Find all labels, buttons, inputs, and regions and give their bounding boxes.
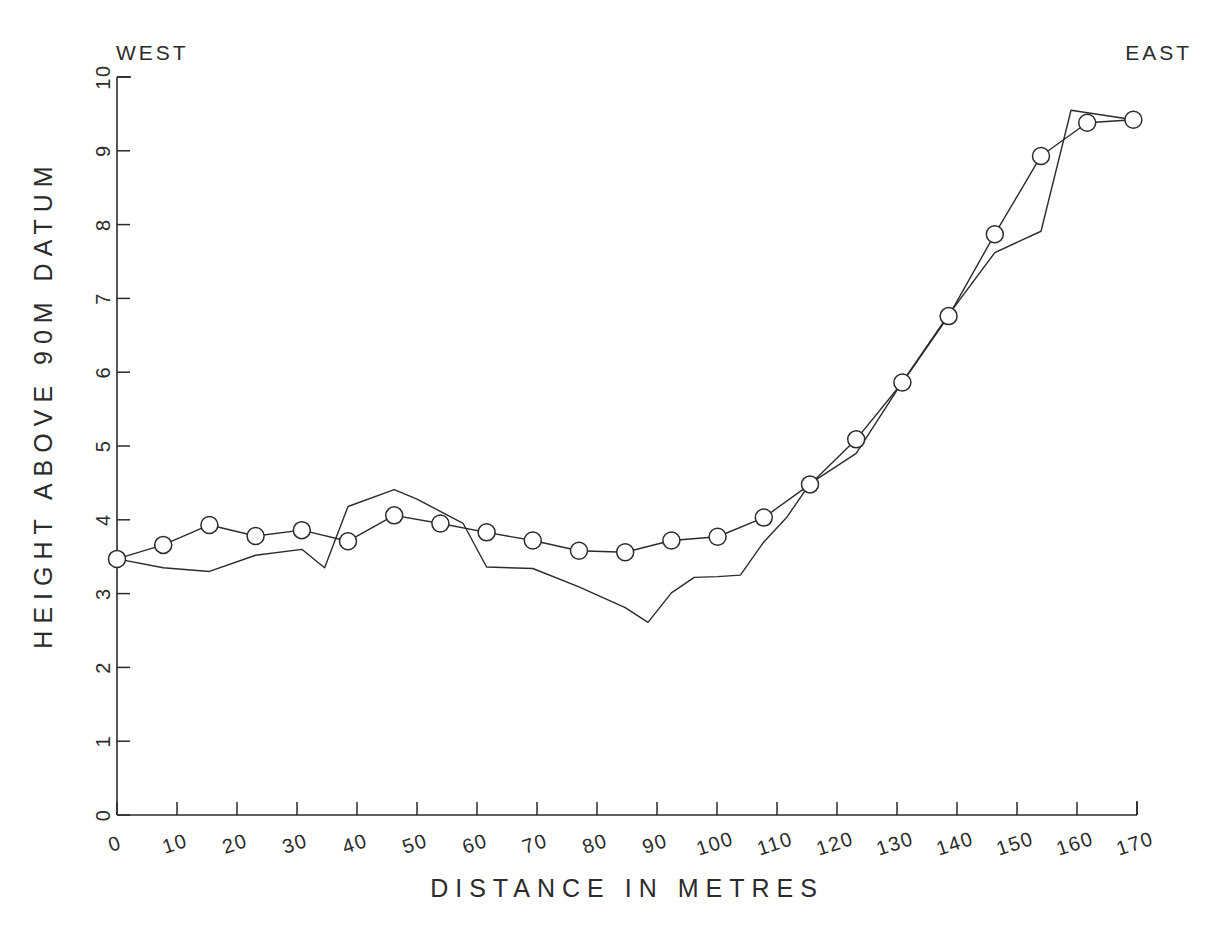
x-tick-label: 160	[1053, 827, 1096, 860]
series-path-surveyed-profile-with-markers	[117, 120, 1133, 559]
y-axis-title: HEIGHT ABOVE 90M DATUM	[29, 159, 57, 648]
y-tick-label: 5	[92, 440, 114, 453]
y-axis-ticks	[117, 77, 130, 815]
data-point-marker	[293, 522, 310, 539]
x-axis-tick-labels: 0102030405060708090100110120130140150160…	[105, 827, 1156, 860]
data-point-marker	[709, 528, 726, 545]
data-point-marker	[848, 431, 865, 448]
data-point-marker	[201, 516, 218, 533]
data-point-marker	[894, 374, 911, 391]
x-tick-label: 70	[519, 829, 550, 858]
y-tick-label: 4	[92, 513, 114, 526]
data-point-marker	[663, 532, 680, 549]
y-tick-label: 7	[92, 292, 114, 305]
x-tick-label: 30	[279, 829, 310, 858]
x-tick-label: 110	[754, 827, 795, 859]
y-tick-label: 3	[92, 587, 114, 600]
data-point-marker	[1125, 111, 1142, 128]
cross-section-profile-chart: WEST EAST 012345678910 01020304050607080…	[0, 0, 1224, 932]
chart-figure: WEST EAST 012345678910 01020304050607080…	[0, 0, 1224, 932]
orientation-label-east: EAST	[1125, 41, 1192, 64]
data-point-marker	[1033, 147, 1050, 164]
x-tick-label: 130	[873, 827, 916, 860]
data-point-marker	[802, 476, 819, 493]
data-point-marker	[524, 532, 541, 549]
data-point-marker	[571, 542, 588, 559]
y-tick-label: 9	[92, 144, 114, 157]
data-marker-layer	[109, 111, 1142, 567]
y-tick-label: 0	[92, 809, 114, 822]
data-point-marker	[755, 509, 772, 526]
x-tick-label: 150	[993, 827, 1036, 860]
x-tick-label: 100	[693, 827, 736, 860]
x-tick-label: 90	[639, 829, 670, 858]
y-tick-label: 6	[92, 366, 114, 379]
x-tick-label: 0	[105, 831, 124, 856]
data-point-marker	[478, 524, 495, 541]
data-point-marker	[617, 544, 634, 561]
orientation-label-west: WEST	[116, 41, 189, 64]
data-point-marker	[340, 533, 357, 550]
data-point-marker	[1079, 114, 1096, 131]
x-tick-label: 50	[399, 829, 430, 858]
data-point-marker	[432, 515, 449, 532]
x-tick-label: 140	[933, 827, 976, 860]
data-point-marker	[386, 507, 403, 524]
x-tick-label: 40	[339, 829, 370, 858]
data-point-marker	[109, 550, 126, 567]
x-tick-label: 10	[159, 829, 190, 858]
data-point-marker	[940, 308, 957, 325]
data-point-marker	[986, 226, 1003, 243]
data-point-marker	[155, 536, 172, 553]
x-tick-label: 20	[219, 829, 250, 858]
y-tick-label: 1	[92, 735, 114, 748]
y-tick-label: 10	[92, 64, 114, 89]
y-tick-label: 2	[92, 661, 114, 674]
x-tick-label: 60	[459, 829, 490, 858]
x-axis-ticks	[117, 802, 1137, 815]
y-axis-tick-labels: 012345678910	[92, 64, 114, 821]
x-axis-title: DISTANCE IN METRES	[430, 874, 824, 902]
y-tick-label: 8	[92, 218, 114, 231]
x-tick-label: 120	[813, 827, 856, 860]
x-tick-label: 170	[1113, 827, 1156, 860]
data-point-marker	[247, 528, 264, 545]
x-tick-label: 80	[579, 829, 610, 858]
